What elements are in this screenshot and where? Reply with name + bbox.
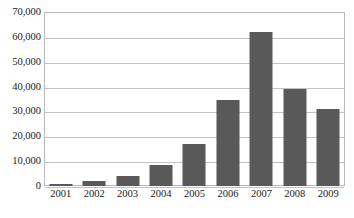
bar[interactable] [250,32,273,186]
bar[interactable] [317,109,340,186]
bar[interactable] [283,89,306,186]
y-tick-label: 50,000 [0,56,41,67]
bar[interactable] [83,181,106,186]
x-tick-label: 2008 [278,189,311,200]
bar[interactable] [216,100,239,186]
bar-slot [178,12,211,186]
bar[interactable] [183,144,206,186]
bars-layer [44,12,345,186]
bar-slot [312,12,345,186]
bar-chart: 010,00020,00030,00040,00050,00060,00070,… [0,0,354,218]
x-tick-label: 2006 [211,189,244,200]
x-tick-label: 2003 [111,189,144,200]
bar-slot [111,12,144,186]
bar[interactable] [150,165,173,186]
y-tick-label: 40,000 [0,81,41,92]
x-tick-label: 2001 [44,189,77,200]
y-tick-label: 70,000 [0,7,41,18]
bar[interactable] [116,176,139,186]
x-tick-label: 2007 [245,189,278,200]
y-tick-label: 0 [0,181,41,192]
x-tick-label: 2002 [77,189,110,200]
y-tick-label: 20,000 [0,131,41,142]
y-tick-label: 60,000 [0,32,41,43]
x-tick-label: 2004 [144,189,177,200]
y-tick-label: 10,000 [0,156,41,167]
y-axis: 010,00020,00030,00040,00050,00060,00070,… [0,12,41,186]
bar-slot [245,12,278,186]
bar-slot [211,12,244,186]
x-tick-label: 2009 [312,189,345,200]
bar-slot [44,12,77,186]
bar[interactable] [49,184,72,186]
y-tick-label: 30,000 [0,106,41,117]
bar-slot [144,12,177,186]
bar-slot [278,12,311,186]
bar-slot [77,12,110,186]
x-tick-label: 2005 [178,189,211,200]
x-axis: 200120022003200420052006200720082009 [44,189,345,207]
